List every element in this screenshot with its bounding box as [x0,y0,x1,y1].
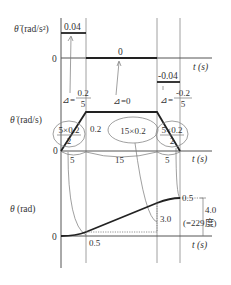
accel-value-2: 0 [118,47,123,57]
svg-text:θ̇ (rad/s): θ̇ (rad/s) [10,115,42,126]
velocity-zero-label: 0 [53,146,58,156]
position-symbol: θ [10,204,15,214]
arrow-icon [70,37,71,93]
slope-annotation-3: ⊿= -0.2 5 [160,88,192,109]
svg-text:5: 5 [81,99,86,109]
svg-text:15×0.2: 15×0.2 [120,126,145,136]
accel-plot: θ̈ (rad/s²) 0 t (s) 0.04 0 -0.04 [14,22,212,95]
total-degrees-label: (=229度) [183,217,217,228]
svg-text:θ (rad): θ (rad) [10,204,36,215]
svg-text:0.2: 0.2 [77,88,88,98]
total-label: 4.0 [205,205,217,215]
duration-2: 15 [115,155,125,165]
duration-3: 5 [165,155,170,165]
position-label-1: 0.5 [89,238,101,248]
accel-value-1: 0.04 [64,22,81,32]
svg-text:-0.2: -0.2 [176,88,190,98]
arrow-head-icon [68,36,73,41]
connector-curve [176,148,180,198]
position-label-3: 0.5 [182,193,194,203]
velocity-peak-label: 0.2 [90,124,101,134]
svg-text:⊿=: ⊿= [160,95,173,105]
position-plot: θ (rad) 0 t (s) 0.5 3.0 0.5 4.0 (=229度) [10,193,217,251]
velocity-unit: (rad/s) [17,115,42,126]
velocity-x-label: t (s) [192,154,207,165]
svg-text:5: 5 [181,99,186,109]
arrow-icon [116,62,119,95]
position-label-2: 3.0 [160,214,172,224]
position-zero-label: 0 [52,232,57,242]
motion-profile-diagram: θ̈ (rad/s²) 0 t (s) 0.04 0 -0.04 θ̇ (rad… [0,0,231,285]
accel-zero-label: 0 [52,54,57,64]
svg-text:⊿=: ⊿= [62,95,75,105]
svg-text:2: 2 [170,136,175,146]
accel-x-label: t (s) [193,62,208,73]
svg-text:2: 2 [67,136,72,146]
svg-text:5×0.2: 5×0.2 [59,125,80,135]
slope-annotation-1: ⊿= 0.2 5 [62,88,91,109]
svg-text:5×0.2: 5×0.2 [162,125,183,135]
slope-annotation-2: ⊿=0 [113,96,131,106]
duration-1: 5 [70,155,75,165]
position-x-label: t (s) [192,240,207,251]
velocity-plot: θ̇ (rad/s) 0 t (s) ⊿= 0.2 5 ⊿=0 ⊿= -0.2 … [10,88,212,165]
position-unit: (rad) [17,204,35,215]
accel-value-3: -0.04 [158,71,178,81]
svg-text:θ̈ (rad/s²): θ̈ (rad/s²) [14,24,49,35]
accel-unit: (rad/s²) [21,24,49,35]
